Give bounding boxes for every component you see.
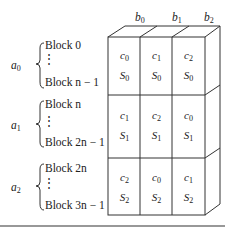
- cell-c: c2: [109, 171, 140, 185]
- cell-c: c0: [109, 49, 140, 63]
- column-header-b1: b1: [172, 11, 182, 27]
- cell-s: S2: [141, 191, 172, 205]
- cell-s: S1: [109, 129, 140, 143]
- vdots-icon: ⋮: [43, 116, 55, 126]
- cell-c: c2: [173, 49, 204, 63]
- cell-c: c0: [173, 109, 204, 123]
- cell-s: S1: [173, 129, 204, 143]
- vdots-icon: ⋮: [43, 178, 55, 188]
- group-a0-last-block: Block n − 1: [45, 76, 99, 88]
- column-header-b0: b0: [135, 11, 145, 27]
- group-a1-first-block: Block n: [45, 98, 81, 110]
- column-header-b2: b2: [204, 11, 214, 27]
- vdots-icon: ⋮: [43, 54, 55, 64]
- group-label-a1: a1: [11, 119, 21, 135]
- cell-c: c0: [141, 171, 172, 185]
- cell-c: c2: [141, 109, 172, 123]
- cell-s: S0: [141, 69, 172, 83]
- group-a1-last-block: Block 2n − 1: [45, 136, 105, 148]
- cell-c: c1: [141, 49, 172, 63]
- cell-c: c1: [109, 109, 140, 123]
- group-label-a0: a0: [11, 59, 21, 75]
- cell-c: c1: [173, 171, 204, 185]
- cell-s: S1: [141, 129, 172, 143]
- cell-s: S0: [173, 69, 204, 83]
- cell-s: S0: [109, 69, 140, 83]
- group-a0-first-block: Block 0: [45, 39, 81, 51]
- group-label-a2: a2: [11, 181, 21, 197]
- cell-s: S2: [109, 191, 140, 205]
- group-a2-first-block: Block 2n: [45, 162, 87, 174]
- block-assignment-diagram: b0 b1 b2 a0 Block 0 ⋮ Block n − 1 a1 Blo…: [0, 0, 231, 232]
- group-a2-last-block: Block 3n − 1: [45, 199, 105, 211]
- cell-s: S2: [173, 191, 204, 205]
